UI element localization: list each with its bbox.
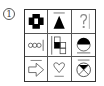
split-squares-icon bbox=[48, 34, 70, 57]
cell-r2c1 bbox=[25, 34, 48, 58]
cell-r1c2 bbox=[48, 10, 71, 34]
puzzle-grid bbox=[24, 9, 96, 82]
cell-r3c1 bbox=[25, 57, 48, 81]
cell-r2c3 bbox=[72, 34, 95, 58]
thick-black-cross-square-icon bbox=[25, 10, 47, 33]
cell-r3c3 bbox=[72, 57, 95, 81]
arrow-right-outline-icon bbox=[25, 57, 47, 81]
heart-outline-icon bbox=[48, 57, 70, 81]
cell-r3c2 bbox=[48, 57, 71, 81]
cell-r2c2 bbox=[48, 34, 71, 58]
cell-r1c3 bbox=[72, 10, 95, 34]
three-circles-icon bbox=[25, 34, 47, 57]
question-mark-icon bbox=[72, 10, 95, 33]
question-number-badge: 1 bbox=[3, 8, 15, 20]
cell-r1c1 bbox=[25, 10, 48, 34]
circle-x-icon bbox=[72, 57, 95, 81]
half-black-circle-icon bbox=[72, 34, 95, 57]
black-triangle-icon bbox=[48, 10, 70, 33]
